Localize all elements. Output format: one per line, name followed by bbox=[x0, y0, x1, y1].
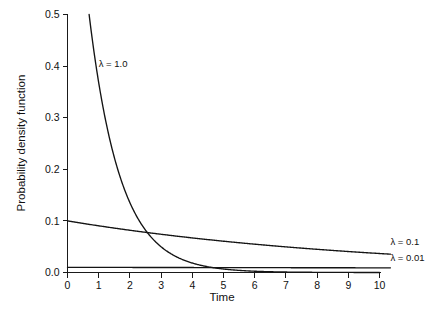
x-tick-label-4: 4 bbox=[189, 279, 195, 291]
series-label-lambda-0.01: λ = 0.01 bbox=[390, 252, 424, 263]
x-axis-title: Time bbox=[209, 291, 234, 303]
chart-container: 012345678910 0.00.10.20.30.40.5 λ = 1.0λ… bbox=[0, 0, 430, 320]
x-tick-label-8: 8 bbox=[314, 279, 320, 291]
y-axis-title: Probability density function bbox=[15, 75, 27, 212]
y-tick-label-0.1: 0.1 bbox=[45, 215, 60, 227]
series-label-lambda-1.0: λ = 1.0 bbox=[99, 58, 128, 69]
y-tick-label-0.2: 0.2 bbox=[45, 163, 60, 175]
x-tick-label-1: 1 bbox=[96, 279, 102, 291]
x-tick-label-10: 10 bbox=[374, 279, 386, 291]
x-tick-label-6: 6 bbox=[252, 279, 258, 291]
x-tick-label-0: 0 bbox=[65, 279, 71, 291]
y-tick-label-0.4: 0.4 bbox=[45, 60, 60, 72]
x-tick-label-2: 2 bbox=[127, 279, 133, 291]
y-tick-label-0.5: 0.5 bbox=[45, 8, 60, 20]
y-tick-label-0.0: 0.0 bbox=[45, 266, 60, 278]
x-tick-label-7: 7 bbox=[283, 279, 289, 291]
x-tick-label-9: 9 bbox=[345, 279, 351, 291]
curve-lambda-0.01 bbox=[68, 267, 391, 268]
x-tick-label-5: 5 bbox=[221, 279, 227, 291]
probability-density-plot: 012345678910 0.00.10.20.30.40.5 λ = 1.0λ… bbox=[0, 0, 430, 320]
x-tick-label-3: 3 bbox=[158, 279, 164, 291]
y-tick-label-0.3: 0.3 bbox=[45, 111, 60, 123]
series-label-lambda-0.1: λ = 0.1 bbox=[390, 236, 419, 247]
